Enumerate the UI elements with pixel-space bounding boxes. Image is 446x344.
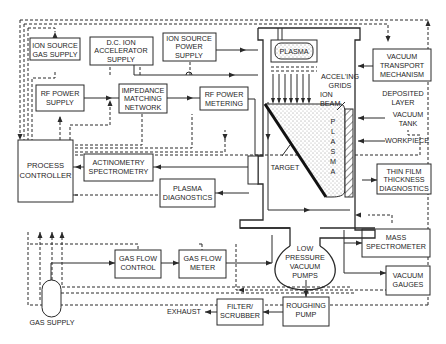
- gas-flow-meter-line1: GAS FLOW: [184, 254, 222, 263]
- gas-supply-label: GAS SUPPLY: [29, 318, 74, 327]
- filter-scrubber-line1: FILTER/: [227, 302, 253, 311]
- deposited-layer-line1: DEPOSITED: [382, 89, 424, 98]
- block-impedance-matching-network: IMPEDANCE MATCHING NETWORK: [119, 84, 167, 113]
- block-dc-ion-accelerator-supply: D.C. ION ACCELERATOR SUPPLY: [90, 37, 153, 65]
- block-ion-source-gas-supply: ION SOURCE GAS SUPPLY: [30, 38, 80, 60]
- mass-spectrometer-line2: SPECTROMETER: [366, 242, 426, 251]
- ion-source-gas-supply-line1: ION SOURCE: [32, 41, 78, 50]
- vacuum-transport-line1: VACUUM: [387, 52, 418, 61]
- plasma-letter-m: M: [330, 157, 336, 166]
- vacuum-transport-line2: TRANSPORT: [380, 61, 425, 70]
- rf-power-supply-line1: RF POWER: [41, 89, 80, 98]
- process-controller-line1: PROCESS: [27, 161, 64, 170]
- ion-beam-line2: BEAM: [320, 99, 340, 108]
- plasma-diagnostics-line1: PLASMA: [173, 184, 202, 193]
- pumps-line4: PUMPS: [292, 271, 318, 280]
- ion-source-power-line3: SUPPLY: [175, 51, 203, 60]
- plasma-diagnostics-line2: DIAGNOSTICS: [163, 193, 213, 202]
- block-actinometry-spectrometry: ACTINOMETRY SPECTROMETRY: [84, 154, 153, 181]
- actinometry-line1: ACTINOMETRY: [92, 158, 144, 167]
- roughing-pump-line1: ROUGHING: [286, 301, 326, 310]
- target-plasma-region: [265, 102, 353, 197]
- plasma-source-label: PLASMA: [279, 47, 308, 56]
- mass-spectrometer-line1: MASS: [386, 233, 407, 242]
- impedance-line2: MATCHING: [124, 94, 162, 103]
- vacuum-tank-line2: TANK: [399, 119, 418, 128]
- dc-ion-line3: SUPPLY: [107, 55, 135, 64]
- vacuum-transport-line3: MECHANISM: [380, 70, 424, 79]
- plasma-letter-s: S: [331, 147, 336, 156]
- plasma-vertical-label: P L A S M A: [330, 117, 336, 176]
- block-filter-scrubber: FILTER/ SCRUBBER: [217, 299, 263, 325]
- plasma-letter-a2: A: [331, 167, 336, 176]
- block-rf-power-metering: RF POWER METERING: [200, 87, 248, 110]
- workpiece-label: WORKPIECE: [385, 136, 429, 145]
- block-roughing-pump: ROUGHING PUMP: [283, 297, 329, 326]
- dc-ion-line2: ACCELERATOR: [94, 46, 147, 55]
- gas-flow-control-line2: CONTROL: [120, 263, 155, 272]
- deposited-layer-line2: LAYER: [391, 98, 414, 107]
- gas-flow-meter-line2: METER: [190, 263, 215, 272]
- gas-flow-control-line1: GAS FLOW: [119, 254, 157, 263]
- plasma-letter-l: L: [331, 127, 335, 136]
- vacuum-gauges-line2: GAUGES: [393, 280, 424, 289]
- roughing-pump-line2: PUMP: [296, 310, 317, 319]
- rf-metering-line1: RF POWER: [205, 90, 244, 99]
- pumps-line3: VACUUM: [290, 262, 321, 271]
- accel-grids-line1: ACCEL'ING: [321, 72, 360, 81]
- block-process-controller: PROCESS CONTROLLER: [18, 140, 73, 202]
- pumps-line1: LOW: [297, 244, 314, 253]
- accel-grids-line2: GRIDS: [329, 81, 352, 90]
- block-gas-flow-meter: GAS FLOW METER: [179, 250, 226, 278]
- block-vacuum-transport-mechanism: VACUUM TRANSPORT MECHANISM: [373, 49, 431, 81]
- impedance-line3: NETWORK: [125, 103, 162, 112]
- plasma-letter-p: P: [331, 117, 336, 126]
- filter-scrubber-line2: SCRUBBER: [220, 311, 260, 320]
- actinometry-line2: SPECTROMETRY: [89, 167, 149, 176]
- gas-cylinder-icon: [42, 280, 61, 317]
- vacuum-tank-line1: VACUUM: [393, 110, 424, 119]
- plasma-ion-source: PLASMA: [271, 28, 317, 71]
- ion-beam-line1: ION: [320, 90, 333, 99]
- vacuum-gauges-line1: VACUUM: [393, 271, 424, 280]
- plasma-letter-a: A: [331, 137, 336, 146]
- thin-film-line2: THICKNESS: [383, 175, 424, 184]
- block-thin-film-thickness-diagnostics: THIN FILM THICKNESS DIAGNOSTICS: [377, 164, 431, 194]
- low-pressure-vacuum-pumps: LOW PRESSURE VACUUM PUMPS: [285, 244, 325, 280]
- plasma-deposition-system-diagram: ION SOURCE GAS SUPPLY D.C. ION ACCELERAT…: [0, 0, 446, 344]
- rf-metering-line2: METERING: [205, 99, 243, 108]
- ion-source-power-line2: POWER: [175, 42, 202, 51]
- block-ion-source-power-supply: ION SOURCE POWER SUPPLY: [163, 33, 216, 61]
- exhaust-label: EXHAUST: [167, 307, 202, 316]
- ion-source-gas-supply-line2: GAS SUPPLY: [32, 50, 77, 59]
- process-controller-line2: CONTROLLER: [20, 171, 72, 180]
- rf-power-supply-line2: SUPPLY: [46, 98, 74, 107]
- thin-film-line3: DIAGNOSTICS: [379, 184, 429, 193]
- block-gas-flow-control: GAS FLOW CONTROL: [115, 250, 161, 278]
- block-plasma-diagnostics: PLASMA DIAGNOSTICS: [160, 179, 215, 207]
- ion-beam-arrows: [271, 74, 311, 104]
- block-rf-power-supply: RF POWER SUPPLY: [36, 85, 84, 111]
- block-mass-spectrometer: MASS SPECTROMETER: [362, 229, 430, 257]
- pumps-line2: PRESSURE: [285, 253, 325, 262]
- block-vacuum-gauges: VACUUM GAUGES: [386, 266, 430, 295]
- target-label: TARGET: [271, 163, 300, 172]
